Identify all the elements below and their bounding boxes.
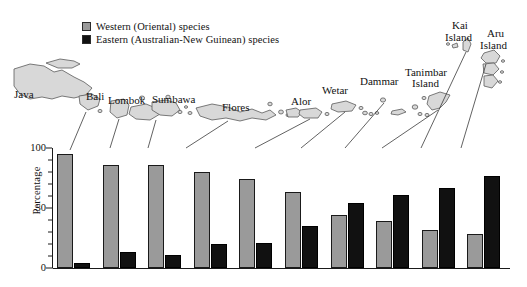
bar-sumbawa-western [148,165,164,268]
bar-dammar-western [331,215,347,268]
bar-wetar-eastern [302,226,318,268]
bar-bali-western [57,154,73,268]
bar-aru-island-western [467,234,483,268]
bar-tanimbar-island-western [376,221,392,268]
bar-alor-western [239,179,255,268]
bar-sumbawa-eastern [165,255,181,268]
bar-tanimbar-island-eastern [393,195,409,268]
bar-flores-western [194,172,210,268]
species-percentage-figure: Western (Oriental) species Eastern (Aust… [0,0,527,287]
bar-chart: Percentage 100 50 0 [0,0,527,287]
bar-dammar-eastern [348,203,364,268]
bar-alor-eastern [256,243,272,268]
bar-aru-island-eastern [484,176,500,268]
y-axis-ticks [46,148,52,268]
bar-bali-eastern [74,263,90,268]
bar-lombok-eastern [120,252,136,268]
bar-wetar-western [285,192,301,268]
bar-lombok-western [103,165,119,268]
bar-flores-eastern [211,244,227,268]
bar-kai-island-western [422,230,438,268]
bar-kai-island-eastern [439,188,455,268]
